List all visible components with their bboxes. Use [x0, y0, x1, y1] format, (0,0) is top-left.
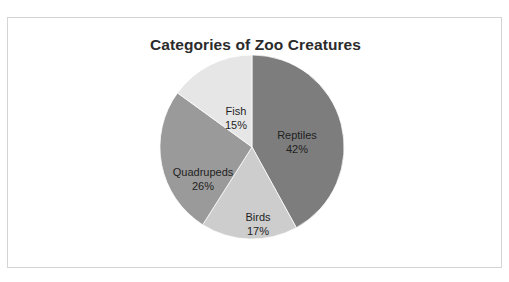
pie-label-quadrupeds-name: Quadrupeds	[173, 165, 234, 179]
pie-label-fish: Fish 15%	[225, 104, 247, 132]
pie-label-fish-name: Fish	[225, 104, 247, 118]
pie-label-reptiles-value: 42%	[277, 142, 317, 156]
pie-label-reptiles: Reptiles 42%	[277, 128, 317, 156]
pie-chart: Reptiles 42% Birds 17% Quadrupeds 26% Fi…	[8, 18, 503, 269]
pie-label-quadrupeds: Quadrupeds 26%	[173, 165, 234, 193]
pie-label-birds-name: Birds	[245, 210, 270, 224]
pie-label-quadrupeds-value: 26%	[173, 179, 234, 193]
pie-label-birds-value: 17%	[245, 224, 270, 238]
pie-label-reptiles-name: Reptiles	[277, 128, 317, 142]
pie-label-fish-value: 15%	[225, 118, 247, 132]
pie-label-birds: Birds 17%	[245, 210, 270, 238]
chart-figure-frame: Categories of Zoo Creatures Reptiles 42%…	[7, 17, 502, 268]
